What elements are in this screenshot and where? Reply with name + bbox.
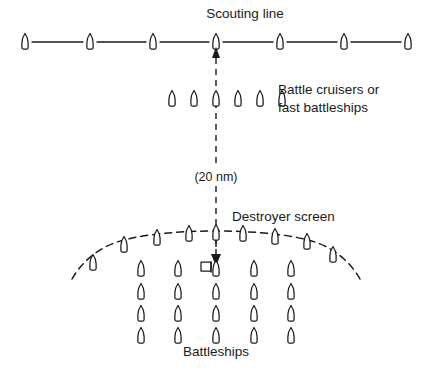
destroyer-screen-label: Destroyer screen xyxy=(232,209,335,224)
scouting-ship-marker xyxy=(277,34,283,50)
battleship-marker xyxy=(251,306,257,322)
battleship-marker xyxy=(288,306,294,322)
destroyer-marker xyxy=(304,234,310,250)
battle-cruisers-group: Battle cruisers or fast battleships xyxy=(169,82,380,115)
battleship-marker xyxy=(138,306,144,322)
battleships-group: Battleships xyxy=(138,261,294,360)
scouting-ship-marker xyxy=(341,34,347,50)
destroyer-marker xyxy=(186,226,192,242)
battleship-marker xyxy=(138,328,144,344)
battleship-marker xyxy=(213,306,219,322)
battle-cruiser-marker xyxy=(257,91,263,107)
scouting-ship-marker xyxy=(213,34,219,50)
scouting-ship-marker xyxy=(150,34,156,50)
battleship-marker xyxy=(251,284,257,300)
battleship-marker xyxy=(251,328,257,344)
battleship-marker xyxy=(288,284,294,300)
battle-cruiser-marker xyxy=(235,91,241,107)
battle-cruisers-label-line2: fast battleships xyxy=(278,100,368,115)
battleship-marker xyxy=(175,306,181,322)
battleship-marker xyxy=(288,328,294,344)
scouting-ship-marker xyxy=(22,34,28,50)
battleship-marker xyxy=(288,261,294,277)
destroyer-marker xyxy=(154,230,160,246)
battleship-marker xyxy=(213,284,219,300)
scouting-line-label: Scouting line xyxy=(206,6,283,21)
battleships-label: Battleships xyxy=(183,344,249,359)
destroyer-marker xyxy=(121,237,127,253)
destroyer-marker xyxy=(213,225,219,241)
battleship-marker xyxy=(175,328,181,344)
battle-cruiser-marker xyxy=(213,91,219,107)
battle-cruiser-marker xyxy=(191,91,197,107)
battleship-marker xyxy=(251,261,257,277)
scouting-ship-marker xyxy=(405,34,411,50)
battleship-marker xyxy=(138,261,144,277)
battleship-marker xyxy=(175,284,181,300)
flagship-marker xyxy=(201,261,219,277)
naval-formation-diagram: Scouting line (20 nm) Battle cruisers or… xyxy=(0,0,432,371)
battleship-marker xyxy=(138,284,144,300)
destroyer-marker xyxy=(272,229,278,245)
diagram-canvas: Scouting line (20 nm) Battle cruisers or… xyxy=(0,0,432,371)
distance-label: (20 nm) xyxy=(194,170,237,184)
destroyer-marker xyxy=(240,226,246,242)
scouting-line-group: Scouting line xyxy=(22,6,411,49)
scouting-ship-marker xyxy=(87,34,93,50)
battleship-marker xyxy=(175,261,181,277)
battle-cruisers-label-line1: Battle cruisers or xyxy=(278,82,380,97)
battle-cruiser-marker xyxy=(169,91,175,107)
battleship-marker xyxy=(213,328,219,344)
